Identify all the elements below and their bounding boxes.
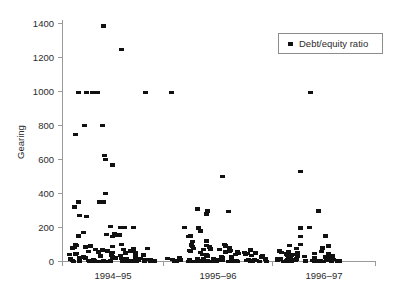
y-tick-label: 1000 xyxy=(33,86,54,97)
data-point xyxy=(76,234,81,238)
data-point xyxy=(205,209,210,213)
data-point xyxy=(198,229,203,233)
data-point xyxy=(326,252,331,256)
data-point xyxy=(96,250,101,254)
y-axis-title: Gearing xyxy=(15,125,26,159)
data-point xyxy=(302,255,307,259)
data-point xyxy=(119,243,124,247)
legend[interactable]: Debt/equity ratio xyxy=(279,34,383,54)
data-point xyxy=(303,259,308,263)
data-point xyxy=(148,260,153,264)
data-point xyxy=(143,91,148,95)
data-point xyxy=(220,175,225,179)
data-point xyxy=(243,252,248,256)
legend-label: Debt/equity ratio xyxy=(299,38,368,49)
data-point xyxy=(295,254,300,258)
data-point xyxy=(98,254,103,257)
data-point xyxy=(76,91,81,95)
data-point xyxy=(87,260,92,264)
data-point xyxy=(103,192,108,196)
data-point xyxy=(182,226,187,230)
data-point xyxy=(145,247,150,251)
data-point xyxy=(316,209,321,213)
data-point xyxy=(214,260,219,264)
data-point xyxy=(229,256,234,260)
data-point xyxy=(264,260,269,264)
data-point xyxy=(229,260,234,264)
data-point xyxy=(319,250,324,254)
data-point xyxy=(204,239,209,243)
data-point xyxy=(71,260,76,264)
data-point xyxy=(289,260,294,264)
data-point xyxy=(119,48,124,52)
data-point xyxy=(77,259,82,263)
y-tick-label: 400 xyxy=(38,188,54,199)
data-point xyxy=(298,235,303,239)
data-point xyxy=(110,245,115,249)
data-point xyxy=(320,246,325,250)
data-point xyxy=(120,260,125,264)
data-point xyxy=(223,250,228,254)
data-point xyxy=(130,260,135,264)
data-point xyxy=(77,256,82,260)
data-point xyxy=(73,133,78,137)
data-point xyxy=(86,250,91,254)
data-point xyxy=(298,243,303,247)
x-tick-label: 1996–97 xyxy=(306,270,343,281)
data-point xyxy=(101,200,106,204)
data-point xyxy=(110,163,115,167)
y-tick-label: 1200 xyxy=(33,52,54,63)
y-tick-label: 800 xyxy=(38,120,54,131)
data-point xyxy=(104,233,109,237)
data-point xyxy=(204,212,209,216)
data-point xyxy=(195,207,200,211)
data-point xyxy=(70,246,75,250)
data-point xyxy=(205,254,210,257)
legend-square-icon xyxy=(288,42,293,46)
data-point xyxy=(329,260,334,264)
chart-canvas: 0 200 400 600 800 1000 1200 1400 1994–95… xyxy=(0,0,398,299)
data-point xyxy=(312,252,317,256)
data-point xyxy=(81,231,86,235)
data-point xyxy=(122,226,127,230)
x-axis-tick-labels: 1994–95 1995–96 1996–97 xyxy=(95,270,343,281)
data-point xyxy=(248,248,253,252)
scatter-chart: 0 200 400 600 800 1000 1200 1400 1994–95… xyxy=(0,0,398,299)
data-point xyxy=(131,226,136,230)
y-tick-label: 1400 xyxy=(33,18,54,29)
data-point xyxy=(283,260,288,264)
data-point xyxy=(186,235,191,239)
y-tick-label: 600 xyxy=(38,154,54,165)
data-point xyxy=(312,260,317,264)
data-point xyxy=(82,124,87,128)
data-point xyxy=(196,226,201,230)
data-point xyxy=(330,254,335,257)
x-tick-label: 1994–95 xyxy=(95,270,132,281)
data-point xyxy=(210,260,215,264)
data-point xyxy=(134,260,139,264)
data-point xyxy=(95,91,100,95)
y-axis-tick-labels: 0 200 400 600 800 1000 1200 1400 xyxy=(33,18,54,267)
data-point xyxy=(279,251,284,255)
data-point xyxy=(101,24,106,28)
data-point xyxy=(235,260,240,264)
data-point-group xyxy=(67,24,342,263)
data-point xyxy=(142,260,147,264)
data-point xyxy=(308,91,313,95)
data-point xyxy=(307,226,312,230)
data-point xyxy=(201,248,206,252)
data-point xyxy=(108,225,113,229)
data-point xyxy=(203,260,208,264)
data-point xyxy=(196,260,201,264)
data-point xyxy=(188,249,193,253)
data-point xyxy=(77,214,82,218)
y-tick-label: 200 xyxy=(38,222,54,233)
data-point xyxy=(102,154,107,158)
data-point xyxy=(220,259,225,263)
data-point xyxy=(67,253,72,257)
data-point xyxy=(72,205,77,209)
data-point xyxy=(191,260,196,264)
data-point xyxy=(335,259,340,263)
data-point xyxy=(123,251,128,255)
data-point xyxy=(84,91,89,95)
